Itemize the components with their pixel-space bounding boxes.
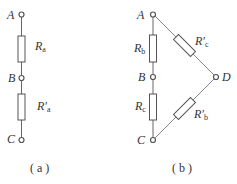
terminal-C xyxy=(19,138,24,143)
label-D: D xyxy=(221,70,231,84)
terminal-C xyxy=(151,138,156,143)
label-B: B xyxy=(8,71,16,85)
label-C: C xyxy=(137,133,146,147)
terminal-B xyxy=(151,75,156,80)
caption-a: ( a ) xyxy=(30,161,49,175)
resistor-R-prime-b xyxy=(174,98,196,120)
label-R-prime-c: R′c xyxy=(194,34,209,49)
label-Ra: Ra xyxy=(34,39,46,54)
resistor-Ra xyxy=(18,36,25,62)
terminal-A xyxy=(19,12,24,17)
resistor-Rb xyxy=(150,35,157,62)
label-A: A xyxy=(6,8,15,22)
label-C: C xyxy=(7,132,16,146)
figure-b xyxy=(150,12,219,143)
circuit-diagram: A B C Ra R′a ( a ) A B C D Rb Rc R′c xyxy=(0,0,237,184)
label-R-prime-b: R′b xyxy=(193,107,208,122)
resistor-Rc xyxy=(150,94,157,120)
terminal-A xyxy=(151,12,156,17)
label-B: B xyxy=(138,70,146,84)
label-Rb: Rb xyxy=(133,41,145,56)
caption-b: ( b ) xyxy=(172,161,192,175)
terminal-B xyxy=(19,76,24,81)
label-Rc: Rc xyxy=(134,99,146,114)
resistor-R-prime-a xyxy=(18,94,25,120)
label-A: A xyxy=(136,8,145,22)
resistor-R-prime-c xyxy=(174,35,196,57)
label-R-prime-a: R′a xyxy=(36,99,51,114)
terminal-D xyxy=(214,75,219,80)
figure-a xyxy=(18,12,25,143)
